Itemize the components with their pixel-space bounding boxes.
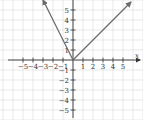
- y-tick-label: −5: [59, 107, 69, 115]
- x-tick-label: −2: [48, 63, 58, 71]
- y-tick-label: −4: [59, 97, 70, 105]
- y-tick-label: −1: [59, 67, 69, 75]
- x-axis-label: x: [135, 52, 139, 60]
- y-tick-label: −3: [59, 87, 69, 95]
- x-tick-label: 5: [121, 63, 125, 71]
- right-branch-line: [73, 2, 131, 60]
- y-tick-label: 4: [65, 17, 70, 25]
- y-tick-label: 3: [65, 27, 69, 35]
- x-tick-label: −3: [38, 63, 48, 71]
- x-tick-label: −5: [18, 63, 28, 71]
- y-tick-label: −2: [59, 77, 69, 85]
- x-tick-label: 4: [111, 63, 116, 71]
- x-tick-label: 2: [91, 63, 95, 71]
- x-tick-label: 1: [81, 63, 85, 71]
- x-tick-label: 3: [101, 63, 105, 71]
- y-tick-label: 5: [65, 7, 69, 15]
- piecewise-function-graph: −5−4−3−2−112345−5−4−3−2−112345x: [0, 0, 143, 120]
